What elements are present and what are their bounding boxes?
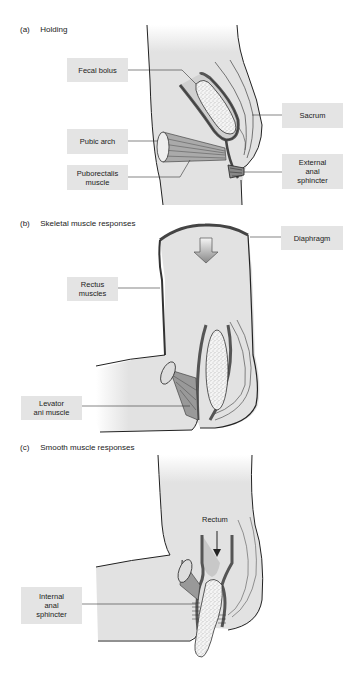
label-sacrum: Sacrum: [282, 103, 343, 128]
panel-c-smooth-muscle-responses: (c) Smooth muscle responses Rectum Inter…: [0, 435, 363, 675]
smooth-response-illustration: [0, 435, 363, 675]
panel-b-skeletal-muscle-responses: (b) Skeletal muscle responses Diaphragm …: [0, 210, 363, 435]
label-fecal-bolus: Fecal bolus: [67, 58, 128, 82]
label-rectum: Rectum: [202, 515, 228, 524]
label-internal-anal-sphincter: Internal anal sphincter: [21, 587, 82, 624]
label-pubic-arch: Pubic arch: [67, 129, 128, 154]
label-rectus-muscles: Rectus muscles: [67, 277, 118, 301]
label-puborectalis-muscle: Puborectalis muscle: [67, 165, 128, 190]
label-levator-ani-muscle: Levator ani muscle: [21, 396, 82, 420]
panel-a-holding: (a) Holding Feca: [0, 0, 363, 210]
label-diaphragm: Diaphragm: [281, 226, 343, 250]
label-external-anal-sphincter: External anal sphincter: [282, 154, 343, 189]
